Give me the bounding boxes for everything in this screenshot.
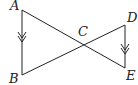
label-c: C	[78, 24, 88, 39]
label-a: A	[9, 0, 19, 13]
segment-bd	[22, 25, 125, 75]
diagram-canvas: A B C D E	[0, 0, 138, 85]
label-d: D	[126, 10, 138, 25]
label-e: E	[125, 68, 136, 83]
label-b: B	[8, 71, 19, 85]
segment-ae	[22, 10, 125, 68]
geometry-diagram: A B C D E	[0, 0, 138, 85]
